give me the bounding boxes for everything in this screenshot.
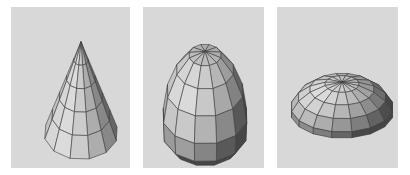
dome-panel: Dome / spherical cap: [277, 7, 398, 168]
egg-mesh: [143, 7, 264, 168]
egg-panel: Egg / paraboloid: [143, 7, 264, 168]
mesh-face: [195, 89, 215, 116]
dome-mesh: [277, 7, 398, 168]
mesh-face: [70, 135, 89, 159]
mesh-face: [195, 161, 217, 165]
mesh-face: [333, 105, 350, 119]
mesh-face: [332, 118, 352, 131]
mesh-face: [332, 132, 352, 138]
mesh-face: [72, 112, 87, 136]
mesh-face: [194, 116, 216, 144]
mesh-face: [74, 88, 86, 112]
mesh-face: [194, 143, 216, 161]
cone-panel: Cone: [11, 7, 130, 168]
cone-mesh: [11, 7, 130, 168]
